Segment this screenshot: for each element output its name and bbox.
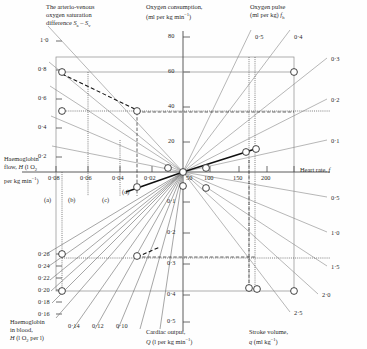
tick-hbblood-0-14: 0·14	[68, 322, 80, 329]
axis-label-heart-rate: Heart rate, f	[300, 166, 330, 174]
cardiac-line1: Cardiac output,	[146, 328, 192, 336]
tick-sat-1-0: 1·0	[40, 36, 48, 43]
marker-d: (d)	[122, 188, 129, 195]
heart-rate-ticks	[210, 166, 294, 172]
tick-sat-0-6: 0·6	[38, 94, 46, 101]
header-o2p-line2: (ml per kg) fh	[250, 11, 285, 22]
label-strokevol-2-0: 2·0	[322, 291, 331, 298]
header-sat-line2: oxygen saturation	[46, 11, 94, 19]
marker-a: (a)	[44, 196, 51, 203]
tick-hbblood-0-26: 0·26	[38, 250, 50, 257]
hbflow-line2: flow, H (l O2	[4, 163, 39, 174]
tick-sat-0-4: 0·4	[38, 123, 46, 130]
tick-hbflow-0-04: 0·04	[112, 174, 124, 181]
tick-co-0-5: 0·5	[167, 317, 175, 324]
tick-o2c-80: 80	[168, 32, 174, 39]
label-strokevol-2-5: 2·5	[294, 309, 303, 316]
hbflow-line3: per kg min−1)	[4, 175, 39, 185]
tick-co-0-4: 0·4	[167, 290, 175, 297]
header-o2c-line1: Oxygen consumption,	[146, 3, 202, 11]
header-sat-line3: difference Sa – Sv	[46, 19, 94, 30]
stroke-line2: q (ml kg−1)	[249, 336, 288, 346]
hbblood-line3: H (l O2 per l)	[10, 334, 45, 345]
tick-hbblood-0-10: 0·10	[116, 322, 128, 329]
tick-hbblood-0-22: 0·22	[38, 274, 50, 281]
marker-c: (c)	[102, 196, 109, 203]
label-o2pulse-0-3: 0·3	[331, 55, 340, 62]
tick-hbblood-0-20: 0·20	[38, 286, 50, 293]
tick-co-0-1: 0·1	[167, 197, 175, 204]
tick-hr-50: 50	[186, 174, 192, 181]
cardiac-output-ticks	[183, 202, 190, 322]
haemoglobin-flow-ticks	[56, 166, 152, 172]
tick-hr-150: 150	[233, 174, 242, 181]
tick-sat-0-8: 0·8	[38, 65, 46, 72]
tick-hbblood-0-12: 0·12	[92, 322, 104, 329]
header-oxygen-pulse: Oxygen pulse (ml per kg) fh	[250, 3, 285, 23]
label-strokevol-1-0: 1·0	[331, 229, 340, 236]
label-o2pulse-0-1: 0·1	[331, 137, 340, 144]
hbflow-line1: Haemoglobin	[4, 155, 39, 163]
tick-o2c-20: 20	[168, 137, 174, 144]
header-o2c-line2: (ml per kg min−1)	[146, 11, 202, 21]
header-sat-difference: The arterio-venous oxygen saturation dif…	[46, 3, 94, 31]
tick-hbflow-0-06: 0·06	[80, 174, 92, 181]
tick-co-0-2: 0·2	[167, 228, 175, 235]
label-o2pulse-0-4: 0·4	[294, 33, 303, 40]
central-axes	[22, 31, 330, 331]
hbblood-line2: in blood,	[10, 326, 45, 334]
axis-label-haemoglobin-blood: Haemoglobin in blood, H (l O2 per l)	[10, 318, 45, 346]
label-strokevol-0-5: 0·5	[331, 194, 340, 201]
header-sat-line1: The arterio-venous	[46, 3, 94, 11]
hbblood-line1: Haemoglobin	[10, 318, 45, 326]
tick-hbflow-0-02: 0·02	[144, 174, 156, 181]
tick-hbblood-0-24: 0·24	[38, 262, 50, 269]
label-o2pulse-0-2: 0·2	[331, 96, 340, 103]
axis-label-haemoglobin-flow: Haemoglobin flow, H (l O2 per kg min−1)	[4, 155, 39, 185]
tick-o2c-60: 60	[168, 67, 174, 74]
label-strokevol-1-5: 1·5	[331, 263, 340, 270]
tick-hbflow-0-08: 0·08	[48, 174, 60, 181]
axis-label-cardiac-output: Cardiac output, Q (l per kg min−1)	[146, 328, 192, 347]
tick-co-0-3: 0·3	[167, 259, 175, 266]
axis-label-stroke-volume: Stroke volume, q (ml kg−1)	[249, 328, 288, 347]
sat-difference-family	[48, 26, 183, 172]
cardiac-line2: Q (l per kg min−1)	[146, 336, 192, 346]
tick-hr-200: 200	[261, 174, 270, 181]
oxygen-consumption-ticks	[183, 37, 190, 142]
tick-sat-0-2: 0·2	[38, 152, 46, 159]
tick-o2c-40: 40	[168, 102, 174, 109]
header-oxygen-consumption: Oxygen consumption, (ml per kg min−1)	[146, 3, 202, 22]
sat-difference-ticks	[56, 41, 62, 157]
nomogram-figure: .ax{stroke:#4a4a4a;stroke-width:0.9;fill…	[0, 0, 367, 349]
label-o2pulse-0-5: 0·5	[255, 33, 264, 40]
header-o2p-line1: Oxygen pulse	[250, 3, 285, 11]
tick-hr-100: 100	[204, 174, 213, 181]
marker-b: (b)	[68, 196, 75, 203]
tick-hbblood-0-18: 0·18	[38, 298, 50, 305]
tick-hbblood-0-16: 0·16	[38, 310, 50, 317]
plot-frame	[56, 57, 294, 291]
stroke-line1: Stroke volume,	[249, 328, 288, 336]
